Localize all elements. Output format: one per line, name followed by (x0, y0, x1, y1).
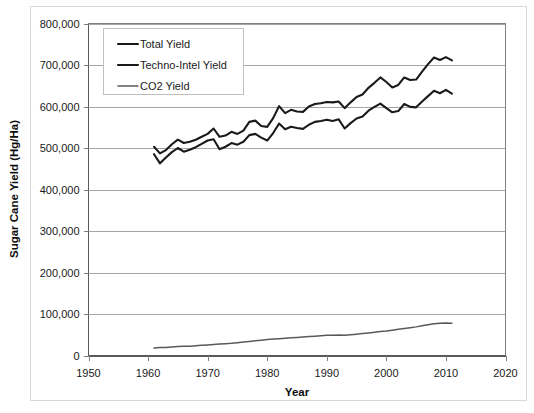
y-tick-label-600000: 600,000 (40, 101, 80, 113)
y-tick-label-500000: 500,000 (40, 142, 80, 154)
x-tick-label-2010: 2010 (434, 367, 458, 379)
x-tick-label-1950: 1950 (76, 367, 100, 379)
y-tick-label-800000: 800,000 (40, 18, 80, 30)
y-tick-label-200000: 200,000 (40, 267, 80, 279)
chart-figure: 0100,000200,000300,000400,000500,000600,… (0, 0, 534, 413)
data-series-group (154, 57, 452, 348)
legend-label-0: Total Yield (140, 38, 190, 50)
y-tick-label-400000: 400,000 (40, 184, 80, 196)
legend-label-1: Techno-Intel Yield (140, 59, 227, 71)
legend: Total YieldTechno-Intel YieldCO2 Yield (104, 29, 244, 95)
y-tick-label-100000: 100,000 (40, 308, 80, 320)
x-axis (89, 356, 507, 361)
x-tick-label-1960: 1960 (136, 367, 160, 379)
legend-label-2: CO2 Yield (140, 80, 190, 92)
x-axis-title: Year (285, 386, 310, 398)
series-line-co2-yield (154, 323, 452, 348)
y-tick-label-300000: 300,000 (40, 225, 80, 237)
x-tick-labels: 19501960197019801990200020102020 (76, 367, 517, 379)
x-tick-label-1970: 1970 (195, 367, 219, 379)
y-tick-label-0: 0 (73, 350, 79, 362)
x-tick-label-2020: 2020 (493, 367, 517, 379)
y-axis (84, 24, 89, 357)
x-tick-label-1990: 1990 (315, 367, 339, 379)
y-tick-labels: 0100,000200,000300,000400,000500,000600,… (40, 18, 80, 362)
y-axis-title: Sugar Cane Yield (Hg/Ha) (8, 120, 20, 258)
series-line-techno-intel-yield (154, 90, 452, 163)
y-tick-label-700000: 700,000 (40, 59, 80, 71)
x-tick-label-2000: 2000 (374, 367, 398, 379)
x-tick-label-1980: 1980 (255, 367, 279, 379)
line-chart: 0100,000200,000300,000400,000500,000600,… (0, 0, 534, 413)
